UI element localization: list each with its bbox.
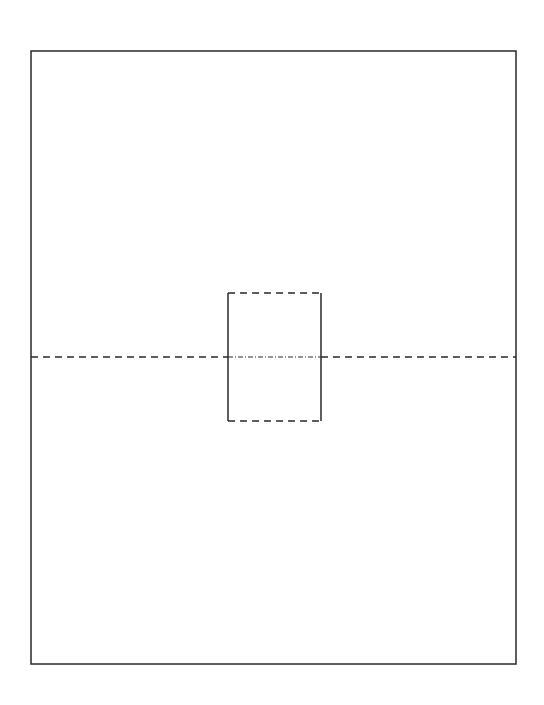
diagram-canvas [0, 0, 544, 705]
